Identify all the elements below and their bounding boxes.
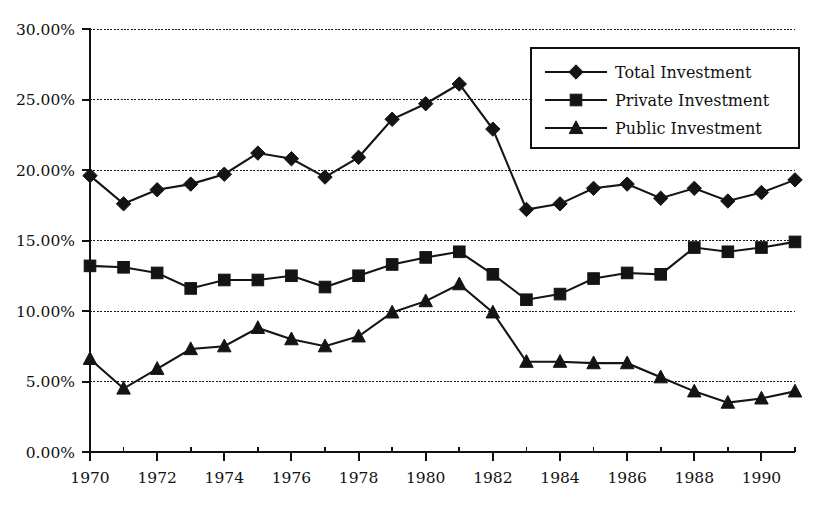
series-public-investment (83, 277, 802, 408)
data-point-marker (318, 170, 332, 184)
investment-line-chart: 0.00%5.00%10.00%15.00%20.00%25.00%30.00%… (0, 0, 813, 522)
x-tick-label: 1976 (272, 469, 311, 487)
data-point-marker (521, 294, 533, 306)
data-point-marker (554, 288, 566, 300)
data-point-marker (721, 194, 735, 208)
data-point-marker (83, 352, 97, 365)
x-tick-label: 1986 (607, 469, 646, 487)
data-point-marker (519, 202, 533, 216)
x-tick-label: 1978 (339, 469, 378, 487)
series-line (90, 284, 795, 402)
x-tick-label: 1980 (406, 469, 445, 487)
x-axis (90, 447, 795, 461)
data-point-marker (487, 269, 499, 281)
data-point-marker (286, 270, 298, 282)
data-point-marker (386, 259, 398, 271)
data-point-marker (553, 197, 567, 211)
data-point-marker (588, 273, 600, 285)
y-tick-labels: 0.00%5.00%10.00%15.00%20.00%25.00%30.00% (16, 21, 75, 462)
data-point-marker (185, 283, 197, 295)
data-point-marker (150, 362, 164, 375)
series-private-investment (84, 236, 801, 305)
data-point-marker (251, 321, 265, 334)
data-point-marker (654, 191, 668, 205)
y-axis (82, 28, 90, 452)
y-tick-label: 30.00% (16, 21, 75, 39)
legend-marker-square-icon (570, 94, 582, 106)
data-point-marker (654, 370, 668, 383)
y-tick-label: 25.00% (16, 91, 75, 109)
data-point-marker (586, 181, 600, 195)
data-point-marker (788, 173, 802, 187)
chart-legend: Total InvestmentPrivate InvestmentPublic… (531, 48, 799, 148)
x-tick-labels: 1970197219741976197819801982198419861988… (70, 469, 781, 487)
data-point-marker (184, 177, 198, 191)
data-point-marker (150, 183, 164, 197)
x-tick-label: 1970 (70, 469, 109, 487)
y-tick-label: 0.00% (26, 444, 75, 462)
legend-item-total-investment[interactable]: Total Investment (545, 63, 752, 82)
data-point-marker (419, 294, 433, 307)
data-point-marker (453, 246, 465, 258)
x-tick-label: 1974 (205, 469, 245, 487)
data-point-marker (754, 185, 768, 199)
legend-item-label: Private Investment (615, 91, 770, 110)
data-point-marker (151, 267, 163, 279)
data-point-marker (217, 167, 231, 181)
data-point-marker (251, 146, 265, 160)
data-point-marker (453, 277, 467, 290)
x-tick-label: 1972 (137, 469, 176, 487)
x-tick-label: 1988 (675, 469, 714, 487)
y-tick-label: 20.00% (16, 162, 75, 180)
data-point-marker (419, 97, 433, 111)
y-tick-label: 10.00% (16, 303, 75, 321)
legend-item-label: Public Investment (615, 119, 762, 138)
data-point-marker (620, 177, 634, 191)
data-point-marker (788, 384, 802, 397)
data-point-marker (353, 270, 365, 282)
chart-canvas: 0.00%5.00%10.00%15.00%20.00%25.00%30.00%… (0, 0, 813, 522)
x-tick-label: 1990 (742, 469, 781, 487)
data-point-marker (756, 242, 768, 254)
data-point-marker (688, 242, 700, 254)
data-point-marker (722, 246, 734, 258)
data-point-marker (687, 181, 701, 195)
data-point-marker (420, 252, 432, 264)
data-point-marker (252, 274, 264, 286)
data-point-marker (655, 269, 667, 281)
data-point-marker (218, 339, 232, 352)
data-point-marker (352, 329, 366, 342)
data-point-marker (688, 384, 702, 397)
y-tick-label: 15.00% (16, 232, 75, 250)
data-point-marker (84, 260, 96, 272)
x-tick-label: 1982 (473, 469, 512, 487)
x-tick-label: 1984 (540, 469, 580, 487)
data-point-marker (118, 261, 130, 273)
legend-item-label: Total Investment (615, 63, 752, 82)
y-tick-label: 5.00% (26, 373, 75, 391)
data-point-marker (319, 281, 331, 293)
data-point-marker (789, 236, 801, 248)
data-point-marker (218, 274, 230, 286)
data-point-marker (284, 152, 298, 166)
data-point-marker (621, 267, 633, 279)
